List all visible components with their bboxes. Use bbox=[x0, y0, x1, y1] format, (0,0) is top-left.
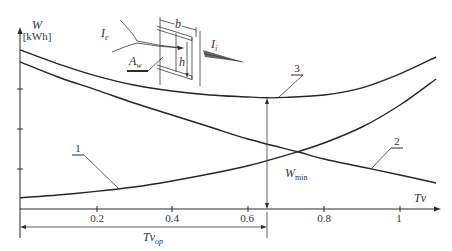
area-sub: w bbox=[136, 61, 142, 70]
area-leader-line bbox=[148, 57, 163, 71]
window-inset-diagram: Ie b h Aw Ii bbox=[100, 17, 243, 86]
leader-line bbox=[371, 148, 391, 169]
outflow-sub: i bbox=[215, 44, 217, 53]
energy-vs-tv-chart: W [kWh] 0.2 0.4 0.6 0.8 1 Tv 1 2 3 bbox=[0, 0, 452, 251]
x-tick-label: 0.2 bbox=[90, 212, 104, 224]
y-axis-unit: [kWh] bbox=[23, 30, 52, 42]
tv-op-annotation: Tvop bbox=[20, 212, 267, 246]
outflow-streamline bbox=[204, 54, 243, 63]
leader-line bbox=[84, 155, 118, 188]
w-min-label: Wmin bbox=[285, 166, 307, 182]
curve-label-3: 3 bbox=[279, 62, 303, 97]
curve-label-2: 2 bbox=[371, 135, 403, 169]
curve-label-text: 2 bbox=[394, 135, 400, 147]
inflow-lower-streamline bbox=[112, 43, 181, 52]
curve-label-text: 3 bbox=[294, 62, 300, 74]
tv-op-sub: op bbox=[155, 237, 163, 246]
inflow-label: Ie bbox=[100, 26, 109, 42]
arrow-up-icon bbox=[265, 98, 269, 104]
curve-label-1: 1 bbox=[72, 142, 118, 188]
outflow-label: Ii bbox=[210, 37, 217, 53]
curve-label-text: 1 bbox=[75, 142, 81, 154]
x-tick-label: 0.4 bbox=[165, 212, 179, 224]
w-min-sub: min bbox=[295, 173, 307, 182]
arrow-down-icon bbox=[265, 203, 269, 209]
x-axis-symbol: Tv bbox=[414, 191, 427, 205]
tv-op-main: Tv bbox=[143, 230, 156, 244]
tv-op-label: Tvop bbox=[143, 230, 163, 246]
outflow-arrow-icon bbox=[203, 50, 243, 62]
x-axis: 0.2 0.4 0.6 0.8 1 Tv bbox=[20, 191, 441, 224]
area-label: Aw bbox=[128, 54, 142, 70]
inflow-sub: e bbox=[105, 33, 109, 42]
arrow-left-icon bbox=[20, 225, 26, 229]
x-tick-label: 1 bbox=[396, 212, 402, 224]
curve-1 bbox=[20, 79, 436, 198]
x-tick-label: 0.8 bbox=[317, 212, 331, 224]
arrow-right-icon bbox=[261, 225, 267, 229]
inflow-arrow-icon bbox=[177, 46, 184, 51]
leader-line bbox=[279, 75, 303, 97]
x-tick-label: 0.6 bbox=[240, 212, 254, 224]
height-label: h bbox=[179, 55, 185, 69]
curve-3 bbox=[20, 50, 436, 98]
x-axis-arrow-icon bbox=[434, 207, 441, 212]
width-label: b bbox=[175, 17, 181, 31]
curves bbox=[20, 50, 436, 198]
curve-2 bbox=[20, 62, 436, 183]
